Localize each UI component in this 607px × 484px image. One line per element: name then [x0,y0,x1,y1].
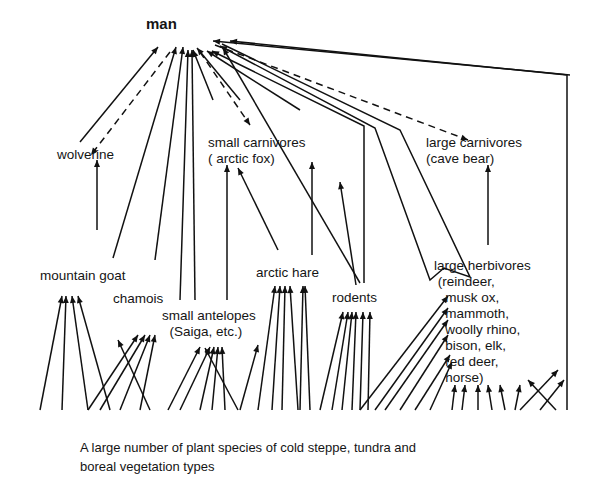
arrowhead-icon [244,118,250,125]
arrowhead-icon [486,385,492,392]
plant-to-herbivore-arrow [78,296,110,410]
arrowhead-icon [287,286,293,293]
arrowhead-icon [179,47,185,54]
plant-to-herbivore-arrow [200,347,214,410]
edge-solid-arrow [113,47,176,258]
caption: A large number of plant species of cold … [80,438,416,476]
arrowhead-icon [282,286,288,293]
arrowhead-icon [63,296,69,303]
arrowhead-icon [77,296,83,304]
caption-line-2: boreal vegetation types [80,457,416,476]
arrowhead-icon [309,162,315,169]
plant-to-herbivore-arrow [88,335,138,410]
arrowhead-icon [271,286,277,293]
arrowhead-icon [151,335,157,342]
node-mountain-goat: mountain goat [40,268,126,284]
arrowhead-icon [171,47,177,55]
arrowhead-icon [70,296,76,303]
arrowhead-icon [353,312,359,319]
edge-solid-arrow [192,50,195,300]
plant-to-herbivore-arrow [305,286,310,410]
food-web-diagram [0,0,607,484]
plant-to-herbivore-arrow [300,286,303,410]
plant-to-herbivore-arrow [205,348,238,410]
node-rodents: rodents [332,290,377,306]
plant-to-herbivore-arrow [240,345,258,410]
plant-to-herbivore-arrow [360,312,363,410]
plant-to-herbivore-arrow [140,335,155,410]
arrowhead-icon [498,385,504,392]
node-chamois: chamois [113,291,163,307]
arrowhead-icon [338,182,344,189]
edge-dashed-arrow [91,52,170,155]
arrowhead-icon [475,385,481,392]
plant-to-herbivore-arrow [72,296,88,410]
path-man-large-herbivores-1 [212,51,364,283]
plant-to-herbivore-arrow [40,296,62,410]
node-large-carnivores: large carnivores (cave bear) [426,135,522,167]
arrowhead-icon [193,50,199,58]
plant-to-herbivore-arrow [222,347,225,410]
plant-to-herbivore-arrow [282,286,285,410]
plant-to-herbivore-arrow [352,312,356,410]
arrowhead-icon [367,312,373,319]
plant-to-herbivore-arrow [118,340,150,410]
arrowhead-icon [58,296,64,303]
plant-to-herbivore-arrow [368,312,370,410]
plant-to-herbivore-arrow [100,335,145,410]
arrowhead-icon [145,335,151,343]
arrowhead-icon [277,286,283,293]
arrowhead-icon [360,312,366,319]
plant-to-herbivore-arrow [212,347,218,410]
node-large-herbivores: large herbivores (reindeer, musk ox, mam… [434,258,531,386]
arrowhead-icon [219,347,225,354]
arrowhead-icon [516,385,522,392]
plant-to-herbivore-arrow [62,296,66,410]
edge-solid-arrow [80,47,158,142]
node-small-antelopes: small antelopes (Saiga, etc.) [162,308,256,340]
node-man: man [146,16,177,32]
node-small-carnivores: small carnivores ( arctic fox) [208,135,306,167]
edge-solid-arrow [180,50,188,300]
edge-solid-arrow [238,168,278,250]
edge-solid-arrow [155,47,183,260]
caption-line-1: A large number of plant species of cold … [80,438,416,457]
plant-to-herbivore-arrow [290,286,298,410]
node-arctic-hare: arctic hare [256,265,319,281]
node-wolverine: wolverine [57,147,114,163]
plant-to-herbivore-arrow [342,312,352,410]
arrowhead-icon [132,335,138,342]
edge-solid-arrow [340,182,356,285]
